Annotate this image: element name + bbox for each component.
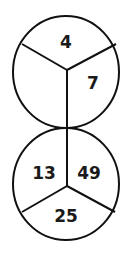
top-spoke-right (67, 44, 116, 70)
bottom-section-bottom-value: 25 (54, 206, 78, 226)
bottom-section-right-value: 49 (77, 163, 101, 183)
circles-svg: 4 7 13 49 25 (0, 0, 132, 257)
top-section-top-value: 4 (60, 32, 72, 52)
puzzle-diagram: 4 7 13 49 25 (0, 0, 132, 257)
top-section-right-value: 7 (87, 73, 99, 93)
bottom-section-left-value: 13 (32, 163, 56, 183)
